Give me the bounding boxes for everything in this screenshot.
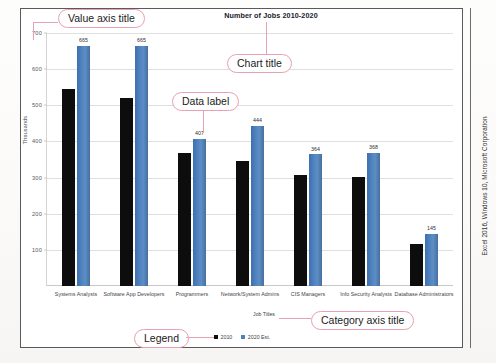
value-axis-tickmark-500 [44,105,47,106]
bar-2020-est--5 [367,153,380,286]
gridline-400 [47,141,453,142]
value-axis-tick-300: 300 [32,175,42,181]
gridline-100 [47,250,453,251]
value-axis-tick-500: 500 [32,102,42,108]
category-label-4: CIS Managers [276,291,340,298]
bar-2020-est--1 [135,46,148,286]
data-label-5: 368 [369,144,378,150]
value-axis-tick-200: 200 [32,211,42,217]
callout-category-axis-title: Category axis title [311,311,414,330]
leader-legend [186,337,214,338]
value-axis-tickmark-700 [44,33,47,34]
data-label-3: 444 [253,117,262,123]
value-axis-tick-600: 600 [32,66,42,72]
callout-value-axis-title: Value axis title [58,9,145,28]
category-label-1: Software App Developers [102,291,166,298]
gridline-700 [47,33,453,34]
data-label-1: 665 [137,37,146,43]
chart-legend: 20102020 Est. [214,334,270,340]
bar-2020-est--6 [425,234,438,286]
legend-entry-1: 2020 Est. [241,334,270,340]
chart-title: Number of Jobs 2010-2020 [224,11,317,20]
category-label-6: Database Administrators [392,291,456,298]
category-axis-title: Job Titles [253,311,275,317]
bar-2010-4 [294,175,307,286]
category-label-3: Network/System Admins [218,291,282,298]
leader-data-label [203,110,204,133]
bar-2010-0 [62,89,75,286]
bar-2010-3 [236,161,249,286]
gridline-300 [47,178,453,179]
value-axis-tickmark-600 [44,69,47,70]
bar-2010-5 [352,177,365,286]
legend-label-0: 2010 [221,334,233,340]
legend-swatch-0 [214,335,218,339]
bar-2010-2 [178,153,191,286]
data-label-0: 665 [79,37,88,43]
data-label-4: 364 [311,146,320,152]
legend-entry-0: 2010 [214,334,232,340]
category-label-0: Systems Analysts [44,291,108,298]
leader-value-axis-title-vertical [33,22,34,40]
leader-chart-title [266,22,267,54]
callout-chart-title: Chart title [227,54,292,73]
figure-container: Number of Jobs 2010-2020 Thousands 66566… [0,0,496,363]
leader-value-axis-title-horizontal [33,22,58,23]
legend-label-1: 2020 Est. [248,334,270,340]
value-axis-line [46,33,47,286]
bar-2020-est--3 [251,126,264,286]
gridline-500 [47,105,453,106]
category-label-5: Info Security Analysts [334,291,398,298]
value-axis-tickmark-400 [44,141,47,142]
bar-2010-1 [120,98,133,286]
legend-swatch-1 [241,335,245,339]
callout-legend: Legend [134,329,189,348]
bar-2020-est--2 [193,139,206,286]
bar-2020-est--0 [77,46,90,286]
value-axis-tickmark-200 [44,213,47,214]
bar-2020-est--4 [309,154,322,286]
value-axis-tick-400: 400 [32,138,42,144]
data-label-6: 145 [427,225,436,231]
gridline-200 [47,214,453,215]
category-axis-line [47,285,453,286]
callout-data-label: Data label [172,92,239,111]
leader-category-axis-title [279,318,311,319]
value-axis-tickmark-300 [44,177,47,178]
figure-credit: Excel 2016, Windows 10, Microsoft Corpor… [481,116,488,255]
value-axis-tick-100: 100 [32,247,42,253]
bar-2010-6 [410,244,423,286]
page-vertical-rule [470,8,471,348]
value-axis-title: Thousands [22,116,28,144]
value-axis-tickmark-100 [44,249,47,250]
category-label-2: Programmers [160,291,224,298]
